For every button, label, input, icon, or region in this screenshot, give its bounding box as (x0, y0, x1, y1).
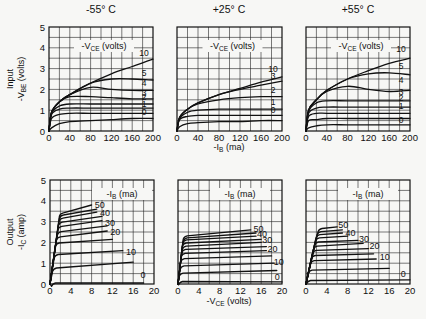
panel-top-middle: 04080120160200-VCE (volts)103210 (174, 27, 290, 143)
y-tick-label: 1 (40, 105, 45, 116)
y-tick-label: 2 (40, 84, 45, 95)
curve-20 (50, 231, 107, 284)
panel-top-left: 04080120160200012345-VCE (volts)10543210 (40, 22, 161, 144)
x-tick-label: 0 (175, 285, 180, 296)
curve-label: 2 (271, 85, 276, 95)
legend-title: -IB (ma) (353, 189, 384, 200)
x-tick-label: 120 (232, 132, 248, 143)
x-tick-label: 120 (360, 132, 376, 143)
legend-title: -VCE (volts) (338, 41, 383, 52)
panel-bottom-right: 048121620-IB (ma)50403020100 (303, 180, 415, 296)
x-tick-label: 16 (128, 285, 139, 296)
y-tick-label: 4 (41, 195, 46, 206)
curve-label: 5 (142, 68, 147, 78)
curve-label: 0 (275, 272, 280, 282)
x-tick-label: 12 (363, 285, 374, 296)
curve-label: 30 (359, 234, 369, 244)
curve-label: 10 (126, 247, 136, 257)
curve-label: 10 (139, 48, 149, 58)
x-tick-label: 120 (103, 132, 119, 143)
y-tick-label: 0 (41, 279, 46, 290)
curve-label: 0 (401, 269, 406, 279)
x-tick-label: 160 (253, 132, 269, 143)
ylabel-input: Input (5, 68, 15, 89)
x-tick-label: 12 (107, 285, 118, 296)
legend-title: -VCE (volts) (81, 41, 126, 52)
x-tick-label: 16 (384, 285, 395, 296)
x-tick-label: 160 (124, 132, 140, 143)
y-tick-label: 1 (41, 258, 46, 269)
x-tick-label: 4 (68, 285, 73, 296)
column-title-plus55: +55° C (342, 3, 375, 15)
curve-label: 0 (142, 107, 147, 117)
x-tick-label: 40 (65, 132, 76, 143)
y-tick-label: 3 (41, 216, 46, 227)
curve-label: 5 (399, 61, 404, 71)
column-title-plus25: +25° C (213, 3, 246, 15)
x-tick-label: 0 (174, 132, 179, 143)
curve-label: 40 (346, 228, 356, 238)
curve-label: 4 (399, 75, 404, 85)
x-tick-label: 0 (46, 132, 51, 143)
legend-title: -IB (ma) (107, 189, 138, 200)
x-tick-label: 20 (149, 285, 160, 296)
curve-20 (178, 251, 266, 284)
x-tick-label: 80 (85, 132, 96, 143)
x-tick-label: 4 (324, 285, 329, 296)
x-tick-label: 40 (193, 132, 204, 143)
legend-title: -IB (ma) (225, 189, 256, 200)
bottom-xlabel: -VCE (volts) (206, 296, 251, 307)
curve-label: 0 (271, 105, 276, 115)
bottom-row-ylabel: Output -IC (amp) (5, 214, 27, 250)
figure: -55° C +25° C +55° C Input -VBE (volts) … (0, 0, 426, 319)
x-tick-label: 8 (345, 285, 350, 296)
curve-label: 0 (140, 270, 145, 280)
curve-label: 10 (274, 257, 284, 267)
y-tick-label: 0 (40, 126, 45, 137)
x-tick-label: 160 (381, 132, 397, 143)
curve-label: 20 (369, 241, 379, 251)
x-tick-label: 8 (89, 285, 94, 296)
x-tick-label: 20 (277, 285, 288, 296)
panel-bottom-left: 048121620012345-IB (ma)50403020100 (41, 175, 160, 297)
x-tick-label: 20 (405, 285, 416, 296)
curve-30 (306, 240, 358, 284)
top-row-ylabel: Input -VBE (volts) (5, 57, 27, 102)
x-tick-label: 40 (322, 132, 333, 143)
column-title-minus55: -55° C (86, 3, 116, 15)
legend-title: -VCE (volts) (210, 41, 255, 52)
x-tick-label: 0 (303, 132, 308, 143)
ylabel-output: Output (5, 218, 15, 246)
y-tick-label: 3 (40, 63, 45, 74)
x-tick-label: 200 (274, 132, 290, 143)
curve-label: 20 (267, 244, 277, 254)
curve-15 (178, 256, 272, 284)
x-tick-label: 12 (235, 285, 246, 296)
ylabel-vbe: -VBE (volts) (16, 57, 27, 102)
x-tick-label: 0 (303, 285, 308, 296)
x-tick-label: 4 (196, 285, 201, 296)
y-tick-label: 5 (40, 22, 45, 33)
x-tick-label: 80 (214, 132, 225, 143)
x-tick-label: 16 (256, 285, 267, 296)
x-tick-label: 80 (342, 132, 353, 143)
top-xlabel: -IB (ma) (214, 142, 245, 153)
x-tick-label: 200 (145, 132, 161, 143)
curve-label: 1 (399, 101, 404, 111)
ylabel-ic: -IC (amp) (16, 214, 27, 250)
x-tick-label: 200 (402, 132, 418, 143)
curve-label: 3 (271, 71, 276, 81)
panel-bottom-middle: 048121620-IB (ma)50403020100 (175, 180, 287, 296)
curve-label: 10 (380, 252, 390, 262)
y-tick-label: 2 (41, 237, 46, 248)
curve-label: 20 (110, 227, 120, 237)
curve-label: 0 (399, 115, 404, 125)
y-tick-label: 4 (40, 42, 45, 53)
x-tick-label: 8 (217, 285, 222, 296)
curve-label: 10 (396, 44, 406, 54)
panel-top-right: 04080120160200-VCE (volts)10543210 (303, 27, 418, 143)
y-tick-label: 5 (41, 175, 46, 186)
